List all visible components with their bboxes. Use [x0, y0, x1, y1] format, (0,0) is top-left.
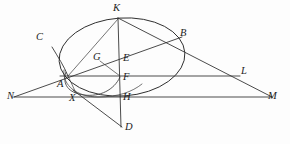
- point-label-L: L: [241, 66, 247, 77]
- main-ellipse: [56, 14, 187, 101]
- point-label-C: C: [36, 32, 43, 43]
- point-label-D: D: [125, 122, 133, 133]
- point-label-F: F: [123, 72, 129, 83]
- point-label-X: X: [69, 93, 75, 104]
- point-label-N: N: [7, 91, 14, 102]
- segment-K-A: [68, 19, 118, 76]
- segment-G-F: [100, 61, 120, 76]
- vertical-K-D: [118, 18, 121, 127]
- point-label-K: K: [113, 3, 120, 14]
- point-label-E: E: [123, 53, 129, 64]
- point-label-B: B: [180, 28, 186, 39]
- point-label-M: M: [268, 91, 277, 102]
- line-K-B-M: [118, 18, 272, 97]
- point-label-G: G: [93, 52, 101, 63]
- point-label-H: H: [123, 92, 131, 103]
- geometry-figure: K C B G E F L A N X H M D: [0, 0, 290, 144]
- point-label-A: A: [57, 79, 63, 90]
